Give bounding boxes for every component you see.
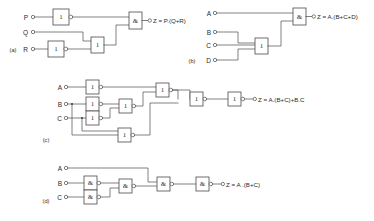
- panel-c-input-terminal-b[interactable]: [64, 102, 67, 105]
- panel-a-gate-inverter-r-symbol: 1: [54, 45, 58, 53]
- panel-a-input-terminal-p[interactable]: [31, 15, 34, 18]
- panel-c-gate-nor-8-symbol: 1: [233, 95, 237, 103]
- panel-c-input-label-c: C: [57, 115, 62, 122]
- panel-d-gate-nand-4-symbol: &: [161, 180, 167, 188]
- panel-d-gate-nand-3-symbol: &: [123, 182, 129, 190]
- panel-c: A 1 B 1 C 1 1 1: [43, 80, 305, 143]
- panel-d-nand-2-bubble-icon: [97, 195, 101, 199]
- wire-b-d-to-or: [217, 49, 255, 60]
- panel-a-input-terminal-r[interactable]: [31, 47, 34, 50]
- panel-d-gate-nand-2-symbol: &: [88, 193, 94, 201]
- panel-c-output-terminal[interactable]: [253, 97, 256, 100]
- panel-c-gate-nor-2-symbol: 1: [91, 100, 95, 108]
- panel-c-nor-1-bubble-icon: [99, 85, 103, 89]
- panel-b-input-label-b: B: [207, 29, 211, 36]
- panel-c-input-terminal-a[interactable]: [64, 85, 67, 88]
- wire-or-to-and: [104, 25, 129, 45]
- panel-d: A B & C & & & & Z = A .(B+C): [43, 165, 260, 205]
- panel-d-input-label-b: B: [58, 180, 62, 187]
- panel-a-gate-inverter-p-symbol: 1: [59, 13, 63, 21]
- panel-a-inverter-r-bubble-icon: [64, 47, 68, 51]
- panel-c-nor-5-bubble-icon: [169, 88, 173, 92]
- panel-b-caption: (b): [189, 58, 196, 64]
- wire-c-g4-to-g5: [136, 92, 156, 106]
- wire-b-or-to-and: [268, 21, 293, 46]
- panel-d-nand-5-bubble-icon: [209, 182, 213, 186]
- wire-c-g3-to-g4: [103, 108, 119, 118]
- panel-b-input-terminal-b[interactable]: [213, 30, 216, 33]
- panel-b-gate-or-symbol: 1: [260, 42, 264, 50]
- panel-c-gate-nor-5-symbol: 1: [161, 86, 165, 94]
- panel-a-gate-or-symbol: 1: [96, 41, 100, 49]
- panel-b-input-label-d: D: [206, 57, 211, 64]
- panel-b-input-terminal-a[interactable]: [213, 11, 216, 14]
- wire-d-a-to-g4: [68, 168, 157, 182]
- panel-b-output-terminal[interactable]: [312, 15, 315, 18]
- panel-a-output-terminal[interactable]: [148, 19, 151, 22]
- panel-d-input-label-a: A: [58, 165, 63, 172]
- wire-c-g6-to-g7: [135, 103, 178, 135]
- panel-c-gate-nor-7-symbol: 1: [195, 95, 199, 103]
- panel-d-gate-nand-5-symbol: &: [200, 180, 206, 188]
- panel-d-nand-4-bubble-icon: [170, 182, 174, 186]
- panel-d-input-terminal-b[interactable]: [64, 181, 67, 184]
- panel-d-output-terminal[interactable]: [221, 182, 224, 185]
- panel-c-gate-nor-1-symbol: 1: [91, 83, 95, 91]
- panel-a-input-label-r: R: [23, 46, 28, 53]
- panel-c-gate-nor-3-symbol: 1: [91, 114, 95, 122]
- panel-d-gate-nand-1-symbol: &: [88, 179, 94, 187]
- panel-d-nand-1-bubble-icon: [97, 181, 101, 185]
- panel-d-input-label-c: C: [57, 194, 62, 201]
- panel-d-nand-3-bubble-icon: [132, 184, 136, 188]
- panel-a-input-label-q: Q: [23, 29, 28, 37]
- panel-b: A B C D 1 & Z = A.(B+C+D) (b): [189, 8, 358, 64]
- wire-c-g5-to-g7b: [173, 90, 190, 99]
- panel-d-output-label: Z = A .(B+C): [226, 181, 260, 188]
- panel-c-nor-3-bubble-icon: [99, 116, 103, 120]
- panel-c-gate-nor-4-symbol: 1: [124, 102, 128, 110]
- wire-c-g5-to-g7: [173, 90, 178, 99]
- panel-a-inverter-p-bubble-icon: [69, 15, 73, 19]
- panel-c-output-label: Z = A.(B+C)+B.C: [258, 96, 305, 103]
- panel-d-input-terminal-c[interactable]: [64, 195, 67, 198]
- panel-c-caption: (c): [43, 137, 50, 143]
- panel-b-input-terminal-c[interactable]: [213, 43, 216, 46]
- panel-c-nor-6-bubble-icon: [131, 133, 135, 137]
- wire-q-to-or: [35, 32, 91, 41]
- panel-b-input-terminal-d[interactable]: [213, 58, 216, 61]
- panel-c-nor-4-bubble-icon: [132, 104, 136, 108]
- panel-c-gate-nor-6-symbol: 1: [123, 131, 127, 139]
- panel-a-output-label: Z = P.(Q+R): [153, 17, 186, 24]
- panel-a-gate-and-symbol: &: [133, 17, 139, 25]
- panel-c-nor-2-bubble-icon: [99, 102, 103, 106]
- panel-a: P 1 Q R 1 1 & Z = P.(Q+R) (a): [10, 9, 186, 57]
- logic-circuit-figure: P 1 Q R 1 1 & Z = P.(Q+R) (a): [0, 0, 374, 221]
- panel-b-input-label-c: C: [206, 42, 211, 49]
- panel-a-input-terminal-q[interactable]: [31, 30, 34, 33]
- panel-d-caption: (d): [43, 198, 50, 204]
- panel-b-gate-and-symbol: &: [297, 13, 303, 21]
- panel-d-input-terminal-a[interactable]: [64, 166, 67, 169]
- wire-d-g2-to-g3: [101, 188, 119, 197]
- wire-b-b-to-or: [217, 32, 255, 43]
- panel-c-nor-7-bubble-icon: [203, 97, 207, 101]
- panel-c-input-terminal-c[interactable]: [64, 116, 67, 119]
- panel-b-input-label-a: A: [207, 10, 212, 17]
- panel-c-nor-8-bubble-icon: [241, 97, 245, 101]
- panel-a-input-label-p: P: [24, 14, 28, 21]
- panel-c-input-label-a: A: [58, 84, 63, 91]
- panel-c-input-label-b: B: [58, 101, 62, 108]
- panel-a-caption: (a): [10, 47, 17, 53]
- panel-b-output-label: Z = A.(B+C+D): [317, 13, 358, 20]
